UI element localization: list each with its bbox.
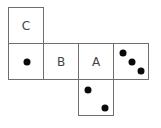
face-a-label: A xyxy=(79,56,113,68)
face-one-dot xyxy=(8,43,44,80)
dot-icon xyxy=(102,105,109,112)
dot-icon xyxy=(85,87,92,94)
face-three-dots xyxy=(113,43,149,80)
face-b-label: B xyxy=(44,56,78,68)
face-c-label: C xyxy=(9,20,43,32)
dot-icon xyxy=(129,59,136,66)
face-two-dots xyxy=(78,79,114,116)
face-c: C xyxy=(8,7,44,44)
face-b: B xyxy=(43,43,79,80)
dot-icon xyxy=(24,59,31,66)
dot-icon xyxy=(138,68,145,75)
dot-icon xyxy=(120,50,127,57)
face-a: A xyxy=(78,43,114,80)
